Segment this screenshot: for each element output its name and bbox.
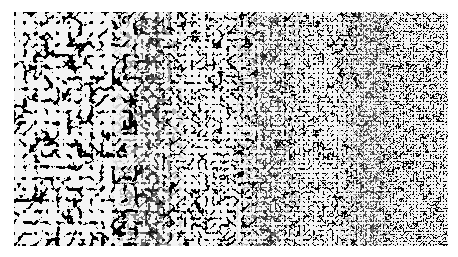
pattern-svg: [14, 12, 448, 246]
turing-pattern-image: [14, 12, 448, 246]
